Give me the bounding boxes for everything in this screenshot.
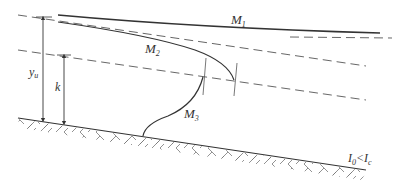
label-m1: M1	[230, 12, 246, 29]
label-m2: M2	[144, 41, 160, 58]
channel-bed-hatching	[18, 119, 366, 180]
label-slope-condition: I0<Ic	[347, 151, 372, 167]
channel-bed-line	[18, 118, 366, 170]
label-k: k	[55, 80, 61, 94]
critical-depth-line	[18, 50, 366, 100]
label-m3: M3	[183, 106, 199, 123]
flow-profile-diagram: M1 M2 M3 yu k I0<Ic	[0, 0, 404, 196]
horizontal-level-line	[290, 37, 392, 38]
normal-depth-line	[18, 15, 366, 66]
m1-curve	[58, 15, 380, 33]
label-yu: yu	[28, 65, 38, 80]
